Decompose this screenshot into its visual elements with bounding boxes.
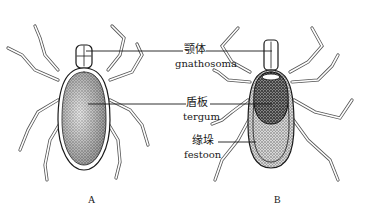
festoon-label-cn: 缘垛 bbox=[192, 135, 214, 147]
gnathosoma-label-en: gnathosoma bbox=[175, 58, 237, 70]
tick-a bbox=[8, 26, 148, 180]
gnathosoma-label-cn: 颚体 bbox=[184, 44, 206, 56]
tick-anatomy-figure: 颚体 gnathosoma 盾板 tergum 缘垛 festoon A B bbox=[0, 0, 372, 216]
panel-letter-b: B bbox=[274, 194, 281, 205]
festoon-label-en: festoon bbox=[184, 149, 221, 161]
panel-letter-a: A bbox=[88, 194, 95, 205]
tergum-label-cn: 盾板 bbox=[186, 97, 208, 109]
tergum-label-en: tergum bbox=[183, 111, 220, 123]
